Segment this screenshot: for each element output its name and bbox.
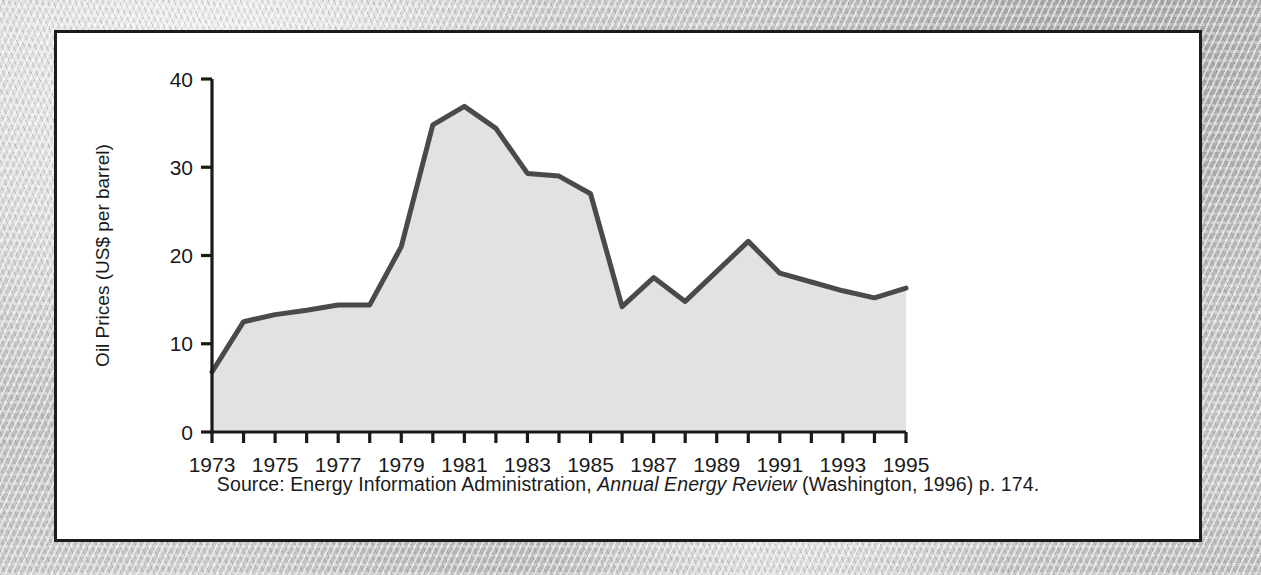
y-tick-label-20: 20 bbox=[170, 244, 193, 267]
figure-panel: 0102030401973197519771979198119831985198… bbox=[54, 30, 1202, 542]
y-tick-label-30: 30 bbox=[170, 156, 193, 179]
y-tick-label-40: 40 bbox=[170, 68, 193, 91]
figure-page: 0102030401973197519771979198119831985198… bbox=[0, 0, 1261, 575]
caption-prefix: Source: Energy Information Administratio… bbox=[217, 473, 597, 495]
caption-suffix: (Washington, 1996) p. 174. bbox=[797, 473, 1040, 495]
source-caption: Source: Energy Information Administratio… bbox=[57, 473, 1199, 496]
y-tick-label-10: 10 bbox=[170, 332, 193, 355]
oil-prices-area-chart: 0102030401973197519771979198119831985198… bbox=[57, 33, 1205, 545]
y-axis-title: Oil Prices (US$ per barrel) bbox=[92, 144, 113, 367]
chart-area: 0102030401973197519771979198119831985198… bbox=[57, 33, 1205, 545]
y-tick-label-0: 0 bbox=[181, 421, 193, 444]
area-fill bbox=[212, 106, 906, 432]
caption-publication-title: Annual Energy Review bbox=[597, 473, 796, 495]
